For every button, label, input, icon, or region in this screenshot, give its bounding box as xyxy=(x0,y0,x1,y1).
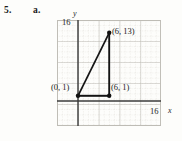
coordinate-plane-svg xyxy=(57,20,161,126)
point-label-vertex-a: (0, 1) xyxy=(51,82,69,92)
vertex-point-c xyxy=(107,31,111,35)
vertex-point-b xyxy=(107,94,111,98)
y-axis-label: y xyxy=(73,9,77,18)
x-axis-label: x xyxy=(168,106,172,115)
coordinate-plane xyxy=(57,20,161,126)
point-label-vertex-b: (6, 1) xyxy=(111,82,129,92)
problem-part-label: a. xyxy=(33,5,41,15)
vertex-point-a xyxy=(76,94,80,98)
point-label-vertex-c: (6, 13) xyxy=(112,26,135,36)
x-axis-tick-label-16: 16 xyxy=(150,106,159,116)
textbook-figure: 5. a. xyxy=(0,0,182,141)
problem-number: 5. xyxy=(4,5,12,15)
y-axis-tick-label-16: 16 xyxy=(62,17,71,27)
